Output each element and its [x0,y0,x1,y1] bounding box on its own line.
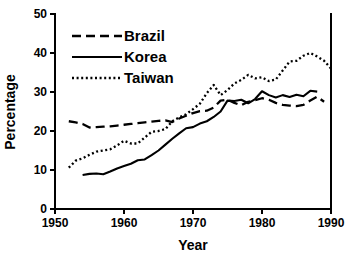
x-axis-tick-labels: 19501960197019801990 [42,216,345,230]
y-tick-label: 30 [34,85,48,99]
axes-group: 01020304050 19501960197019801990 [34,7,345,230]
line-chart: 01020304050 19501960197019801990 BrazilK… [0,0,355,258]
y-tick-label: 0 [40,202,47,216]
legend-label-korea: Korea [124,48,167,65]
chart-legend: BrazilKoreaTaiwan [72,27,174,86]
x-tick-label: 1980 [249,216,276,230]
x-tick-label: 1960 [111,216,138,230]
y-axis-tick-labels: 01020304050 [34,7,48,216]
x-tick-label: 1990 [318,216,345,230]
y-axis-title: Percentage [2,74,18,150]
legend-label-brazil: Brazil [124,27,165,44]
x-axis-title: Year [178,237,208,253]
legend-label-taiwan: Taiwan [124,69,174,86]
y-tick-label: 20 [34,124,48,138]
x-tick-label: 1970 [180,216,207,230]
y-tick-label: 10 [34,163,48,177]
y-tick-label: 40 [34,46,48,60]
y-tick-label: 50 [34,7,48,21]
axis-frame [55,14,331,209]
series-line-brazil [69,97,324,128]
series-group [69,53,331,175]
chart-container: 01020304050 19501960197019801990 BrazilK… [0,0,355,258]
x-tick-label: 1950 [42,216,69,230]
